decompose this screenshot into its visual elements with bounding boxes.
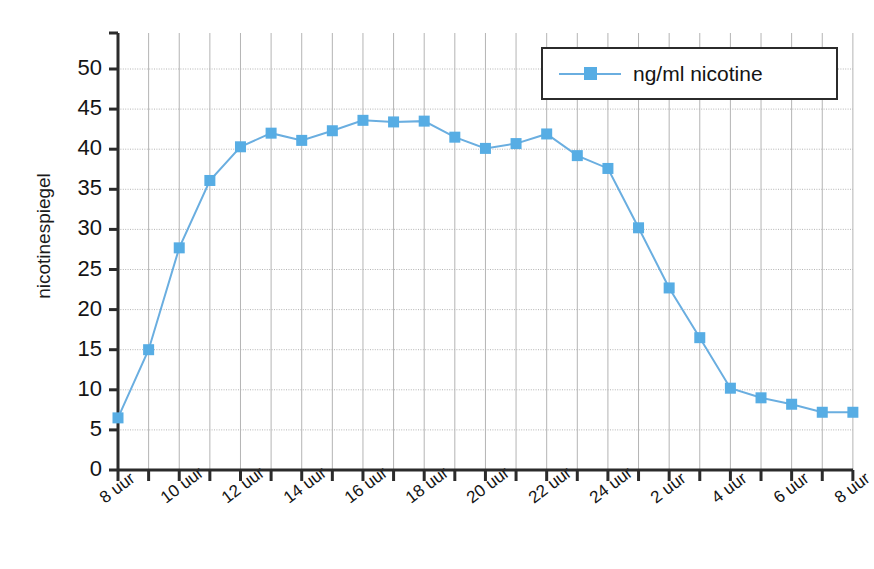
- data-point-marker: [174, 242, 185, 253]
- data-point-marker: [419, 116, 430, 127]
- legend-line-marker-icon: [559, 65, 621, 83]
- data-point-marker: [664, 282, 675, 293]
- data-point-marker: [725, 383, 736, 394]
- data-point-marker: [602, 163, 613, 174]
- data-point-marker: [143, 344, 154, 355]
- data-point-marker: [786, 399, 797, 410]
- data-point-marker: [572, 150, 583, 161]
- data-point-marker: [694, 332, 705, 343]
- data-point-marker: [266, 128, 277, 139]
- data-point-marker: [817, 407, 828, 418]
- data-point-marker: [388, 116, 399, 127]
- data-point-marker: [327, 125, 338, 136]
- chart-legend: ng/ml nicotine: [541, 47, 838, 100]
- data-point-marker: [235, 141, 246, 152]
- data-point-marker: [296, 135, 307, 146]
- data-point-marker: [847, 407, 858, 418]
- data-point-marker: [357, 115, 368, 126]
- data-point-marker: [449, 132, 460, 143]
- data-point-marker: [480, 143, 491, 154]
- data-point-marker: [541, 128, 552, 139]
- data-point-marker: [756, 392, 767, 403]
- legend-label: ng/ml nicotine: [633, 62, 781, 86]
- data-point-marker: [633, 222, 644, 233]
- data-point-marker: [511, 138, 522, 149]
- data-point-marker: [113, 412, 124, 423]
- data-point-marker: [204, 175, 215, 186]
